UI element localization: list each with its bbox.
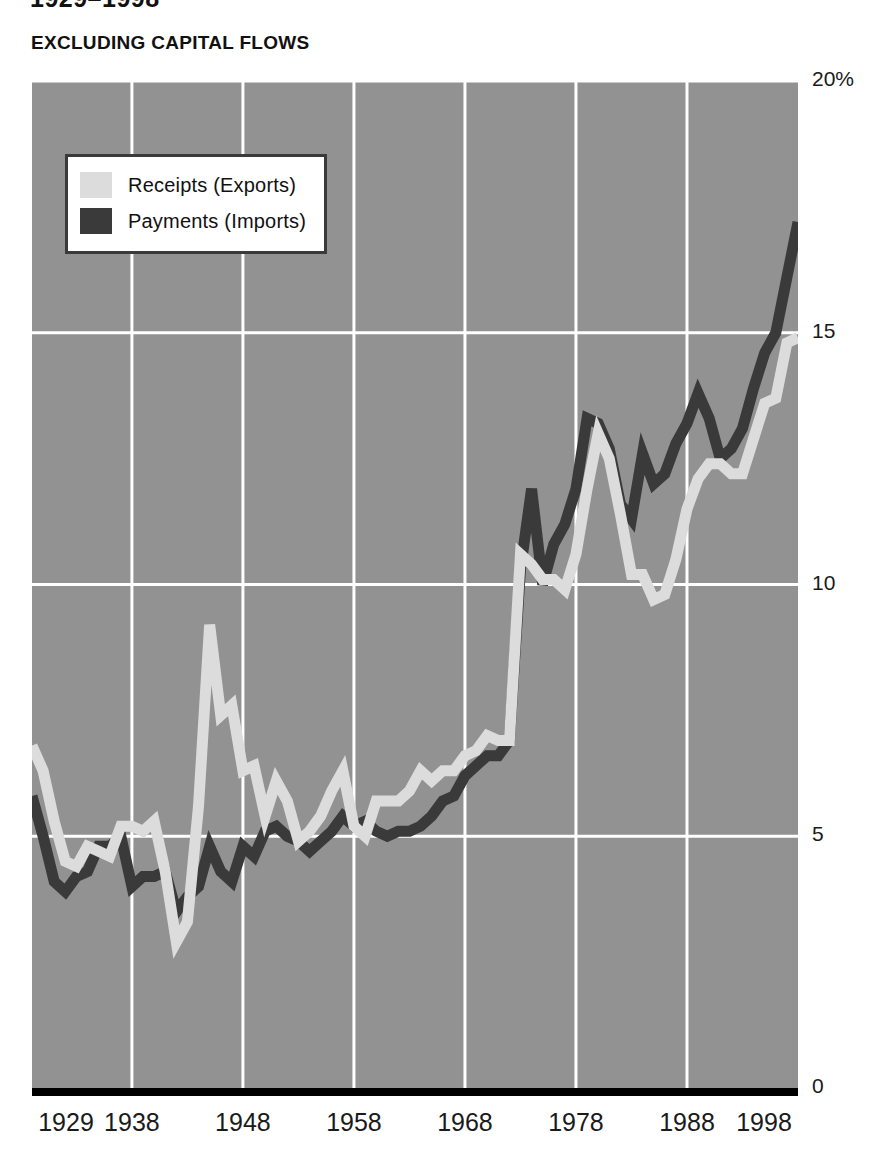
legend-item-receipts: Receipts (Exports) <box>80 167 312 203</box>
x-axis-tick-label: 1988 <box>659 1108 715 1137</box>
y-axis-tick-label: 15 <box>812 319 835 343</box>
y-axis-tick-label: 10 <box>812 571 835 595</box>
x-axis-tick-label: 1948 <box>215 1108 271 1137</box>
page-subtitle: EXCLUDING CAPITAL FLOWS <box>31 32 310 54</box>
x-axis-tick-label: 1958 <box>326 1108 382 1137</box>
x-axis-tick-label: 1968 <box>437 1108 493 1137</box>
chart-legend: Receipts (Exports)Payments (Imports) <box>65 154 327 254</box>
y-axis-tick-label: 5 <box>812 822 824 846</box>
legend-item-payments: Payments (Imports) <box>80 203 312 239</box>
series-line-payments <box>32 222 798 912</box>
x-axis-tick-label: 1938 <box>104 1108 160 1137</box>
y-axis-tick-label: 0 <box>812 1074 824 1098</box>
x-axis-tick-label: 1978 <box>548 1108 604 1137</box>
x-axis-tick-label: 1998 <box>736 1108 792 1137</box>
legend-label-receipts: Receipts (Exports) <box>128 174 296 197</box>
legend-swatch-payments <box>80 208 112 234</box>
page-title: 1929–1998 <box>30 0 160 13</box>
legend-label-payments: Payments (Imports) <box>128 210 306 233</box>
x-axis-tick-label: 1929 <box>38 1108 94 1137</box>
legend-swatch-receipts <box>80 172 112 198</box>
y-axis-tick-label: 20% <box>812 67 854 91</box>
x-axis-baseline <box>32 1088 798 1096</box>
